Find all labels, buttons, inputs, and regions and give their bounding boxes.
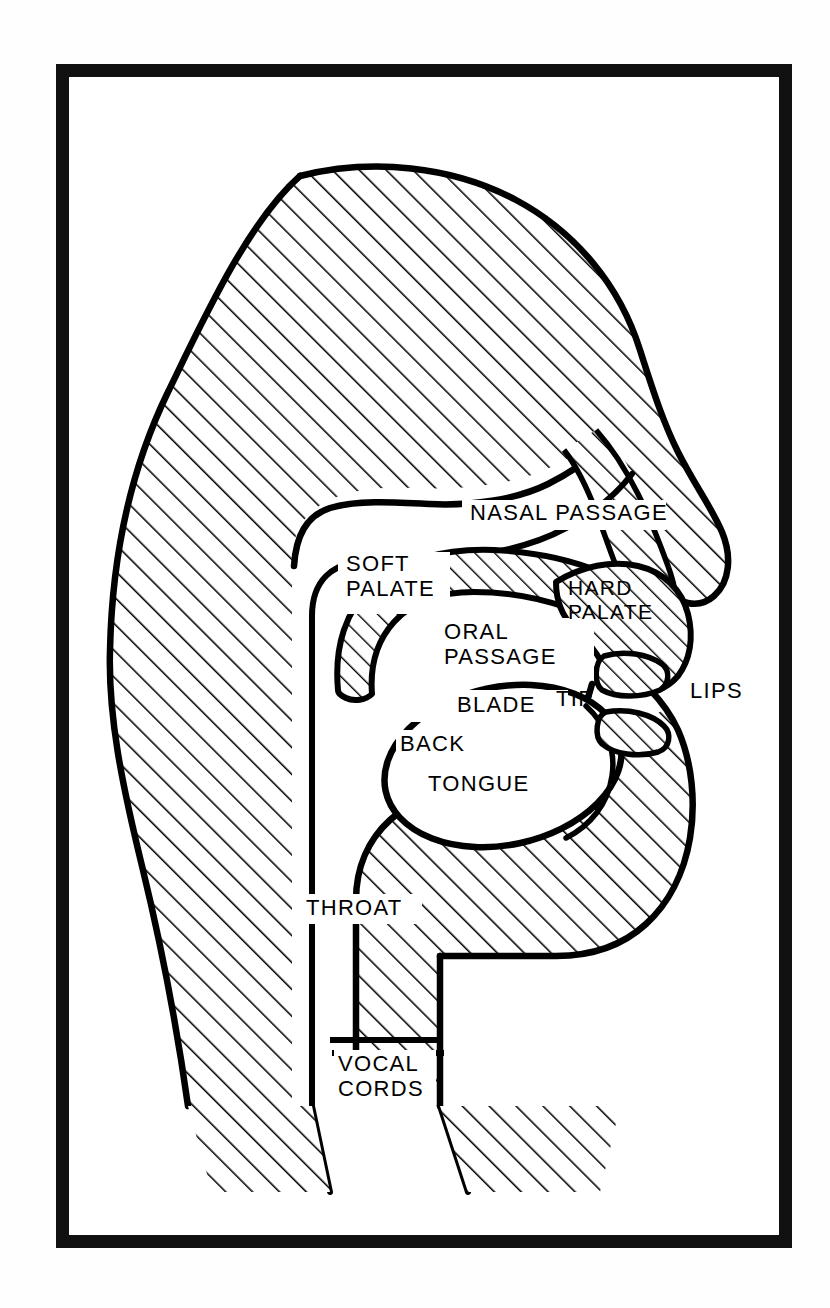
- page-background: NASAL PASSAGE SOFT PALATE HARD PALATE OR…: [0, 0, 830, 1308]
- label-soft-palate-line2: PALATE: [346, 577, 435, 602]
- label-vocal-cords: VOCAL CORDS: [338, 1052, 424, 1101]
- label-tip: TIP: [556, 686, 594, 712]
- label-blade: BLADE: [457, 692, 536, 718]
- label-tongue: TONGUE: [428, 771, 530, 797]
- figure-border-frame: [56, 64, 792, 1248]
- label-back: BACK: [400, 731, 465, 757]
- label-nasal-passage: NASAL PASSAGE: [470, 500, 668, 526]
- label-oral-passage-line2: PASSAGE: [444, 645, 557, 670]
- label-oral-passage-line1: ORAL: [444, 620, 557, 645]
- label-vocal-cords-line1: VOCAL: [338, 1052, 424, 1077]
- label-oral-passage: ORAL PASSAGE: [444, 620, 557, 669]
- label-soft-palate-line1: SOFT: [346, 552, 435, 577]
- label-hard-palate: HARD PALATE: [568, 576, 653, 623]
- label-hard-palate-line2: PALATE: [568, 600, 653, 624]
- label-soft-palate: SOFT PALATE: [346, 552, 435, 601]
- label-lips: LIPS: [690, 678, 743, 704]
- label-hard-palate-line1: HARD: [568, 576, 653, 600]
- label-vocal-cords-line2: CORDS: [338, 1077, 424, 1102]
- label-throat: THROAT: [306, 895, 403, 921]
